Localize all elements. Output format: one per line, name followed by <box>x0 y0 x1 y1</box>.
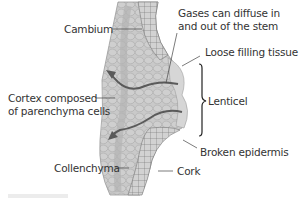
loose-filling-leader <box>182 56 200 66</box>
lenticel-diagram: Cambium Gases can diffuse in and out of … <box>0 0 300 200</box>
gases-label-line2: and out of the stem <box>178 20 278 32</box>
broken-epidermis-leader <box>183 140 197 148</box>
cork-label: Cork <box>177 165 200 177</box>
lenticel-label: Lenticel <box>208 95 247 107</box>
figure-caption-cropped <box>8 194 68 198</box>
gases-label-line1: Gases can diffuse in <box>178 7 280 19</box>
cambium-label: Cambium <box>64 23 113 35</box>
broken-epidermis-label: Broken epidermis <box>200 146 289 158</box>
collenchyma-label: Collenchyma <box>54 162 120 174</box>
cortex-label-line2: of parenchyma cells <box>8 105 110 117</box>
lenticel-bracket <box>199 64 206 136</box>
loose-filling-label: Loose filling tissue <box>205 46 298 58</box>
cortex-label-line1: Cortex composed <box>8 92 97 104</box>
